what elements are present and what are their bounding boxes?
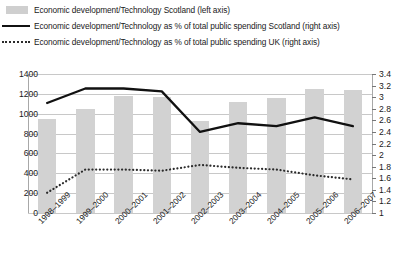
left-axis-tick-label: 600: [0, 149, 38, 158]
right-axis-tick-label: 1.2: [379, 197, 409, 206]
left-axis-tick-label: 1400: [0, 70, 38, 79]
right-axis-tick-mark: [372, 167, 376, 168]
right-axis-tick-mark: [372, 120, 376, 121]
right-axis-tick-label: 2.8: [379, 105, 409, 114]
right-axis-tick-mark: [372, 178, 376, 179]
left-axis-tick-label: 200: [0, 189, 38, 198]
chart-legend: Economic development/Technology Scotland…: [0, 2, 413, 50]
left-axis-tick-label: 0: [0, 209, 38, 218]
line-series: [28, 74, 372, 213]
legend-item-bars: Economic development/Technology Scotland…: [0, 2, 413, 18]
right-axis-tick-label: 1.6: [379, 174, 409, 183]
bar-swatch-icon: [0, 2, 30, 18]
chart-container: Economic development/Technology Scotland…: [0, 0, 413, 263]
line-scotland-pct: [47, 88, 353, 131]
right-axis-tick-label: 1.8: [379, 163, 409, 172]
right-axis-tick-label: 3: [379, 93, 409, 102]
plot-area: [28, 74, 372, 213]
legend-label-dotted-line: Economic development/Technology as % of …: [34, 37, 320, 47]
line-uk-pct: [47, 165, 353, 193]
legend-label-bars: Economic development/Technology Scotland…: [34, 5, 230, 15]
right-axis-tick-label: 2.4: [379, 128, 409, 137]
right-axis-tick-mark: [372, 97, 376, 98]
right-axis-tick-label: 2.2: [379, 140, 409, 149]
left-axis-tick-label: 800: [0, 130, 38, 139]
right-axis-tick-label: 1.4: [379, 186, 409, 195]
left-axis-tick-label: 400: [0, 169, 38, 178]
right-axis-tick-mark: [372, 132, 376, 133]
right-axis-tick-mark: [372, 86, 376, 87]
right-axis-tick-label: 2.6: [379, 116, 409, 125]
left-axis-tick-label: 1000: [0, 110, 38, 119]
dotted-line-icon: [0, 34, 30, 50]
legend-item-solid-line: Economic development/Technology as % of …: [0, 18, 413, 34]
left-axis-tick-label: 1200: [0, 90, 38, 99]
legend-item-dotted-line: Economic development/Technology as % of …: [0, 34, 413, 50]
right-axis-tick-mark: [372, 144, 376, 145]
right-axis-tick-label: 3.4: [379, 70, 409, 79]
right-axis-tick-mark: [372, 155, 376, 156]
right-axis-tick-mark: [372, 213, 376, 214]
solid-line-icon: [0, 18, 30, 34]
legend-label-solid-line: Economic development/Technology as % of …: [34, 21, 340, 31]
right-axis-tick-label: 3.2: [379, 82, 409, 91]
right-axis-tick-mark: [372, 74, 376, 75]
right-axis-tick-label: 1: [379, 209, 409, 218]
right-axis-tick-label: 2: [379, 151, 409, 160]
right-axis-tick-mark: [372, 109, 376, 110]
